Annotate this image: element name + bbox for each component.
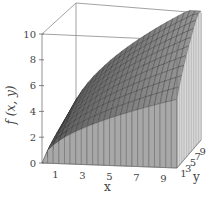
x-axis-label: x xyxy=(104,180,111,194)
x-tick-label: 3 xyxy=(79,170,85,181)
x-tick-label: 9 xyxy=(160,173,166,184)
y-axis-label: y xyxy=(192,170,200,184)
x-tick-label: 1 xyxy=(52,169,58,180)
z-tick-label: 8 xyxy=(30,54,36,65)
z-tick-label: 0 xyxy=(30,158,36,169)
x-tick-label: 7 xyxy=(133,172,139,183)
z-tick-label: 4 xyxy=(30,106,36,117)
z-axis-ticks: 0246810 xyxy=(23,29,44,169)
z-tick-label: 10 xyxy=(23,29,36,40)
z-tick-label: 6 xyxy=(30,80,36,91)
y-tick-label: 9 xyxy=(199,146,205,157)
z-axis-label: f (x, y) xyxy=(4,85,18,125)
z-tick-label: 2 xyxy=(30,132,36,143)
surface-plot: 0246810 13579 13579 x y f (x, y) xyxy=(0,0,213,210)
